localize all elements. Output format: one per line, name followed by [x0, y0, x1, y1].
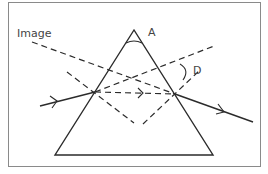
- image-backprojection-line: [32, 42, 175, 94]
- normal-right-face: [143, 70, 200, 124]
- emergent-ray: [175, 94, 253, 122]
- deviation-angle-arc: [180, 64, 186, 80]
- refracted-ray-inside: [95, 92, 175, 94]
- prism-diagram: Image A D: [0, 0, 268, 174]
- apex-angle-label: A: [148, 26, 156, 39]
- normal-left-face: [67, 72, 134, 123]
- deviation-angle-label: D: [193, 64, 201, 77]
- apex-angle-arc: [126, 41, 142, 43]
- image-label: Image: [17, 27, 52, 40]
- prism-triangle: [55, 30, 213, 155]
